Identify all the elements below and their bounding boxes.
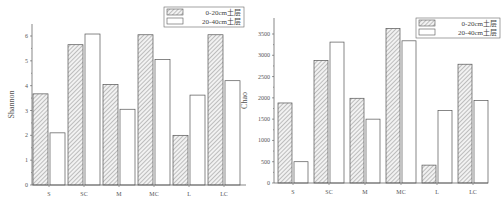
y-tick-label: 0 xyxy=(25,182,28,188)
x-tick-label: LC xyxy=(469,189,477,195)
bar-MC-0-20cm xyxy=(386,28,400,183)
bar-L-0-20cm xyxy=(173,135,188,185)
bar-S-20-40cm xyxy=(294,162,308,183)
bar-MC-20-40cm xyxy=(402,41,416,183)
bar-SC-20-40cm xyxy=(330,42,344,183)
legend-swatch xyxy=(419,20,435,26)
bar-L-20-40cm xyxy=(438,111,452,183)
y-tick-label: 1000 xyxy=(258,137,270,143)
y-tick-label: 2500 xyxy=(258,74,270,80)
bar-M-0-20cm xyxy=(350,98,364,183)
y-tick-label: 1500 xyxy=(258,116,270,122)
legend-label: 20-40cm土层 xyxy=(458,28,497,37)
x-tick-label: SC xyxy=(80,191,87,197)
y-tick-label: 3 xyxy=(25,108,28,114)
legend-swatch xyxy=(167,18,183,24)
x-tick-label: S xyxy=(291,189,294,195)
x-tick-label: L xyxy=(435,189,439,195)
legend-label: 0-20cm土层 xyxy=(206,8,241,17)
bar-SC-20-40cm xyxy=(85,34,100,185)
x-tick-label: LC xyxy=(220,191,228,197)
bar-M-20-40cm xyxy=(120,109,135,185)
y-tick-label: 0 xyxy=(267,180,270,186)
chart-canvas: SSCMMCLLC0123456Shannon0-20cm土层20-40cm土层… xyxy=(0,0,504,205)
x-tick-label: SC xyxy=(325,189,332,195)
y-axis-label: Shannon xyxy=(7,91,16,119)
y-tick-label: 6 xyxy=(25,33,28,39)
bar-M-0-20cm xyxy=(103,84,118,185)
legend: 0-20cm土层20-40cm土层 xyxy=(416,18,500,38)
x-tick-label: MC xyxy=(149,191,158,197)
y-tick-label: 5 xyxy=(25,58,28,64)
y-tick-label: 1 xyxy=(25,157,28,163)
x-tick-label: L xyxy=(187,191,191,197)
legend-swatch xyxy=(167,9,183,15)
bar-S-0-20cm xyxy=(33,94,48,185)
x-tick-label: MC xyxy=(396,189,405,195)
y-tick-label: 4 xyxy=(25,83,28,89)
x-tick-label: M xyxy=(116,191,122,197)
bar-MC-0-20cm xyxy=(138,35,153,185)
legend-swatch xyxy=(419,29,435,35)
bar-SC-0-20cm xyxy=(68,45,83,185)
bar-LC-20-40cm xyxy=(225,81,240,185)
y-tick-label: 3500 xyxy=(258,31,270,37)
x-tick-label: M xyxy=(362,189,368,195)
bar-LC-0-20cm xyxy=(208,35,223,185)
shannon-chart: SSCMMCLLC0123456Shannon0-20cm土层20-40cm土层 xyxy=(7,7,246,197)
legend: 0-20cm土层20-40cm土层 xyxy=(164,7,244,27)
bar-S-0-20cm xyxy=(278,103,292,183)
bar-M-20-40cm xyxy=(366,119,380,183)
x-tick-label: S xyxy=(47,191,50,197)
legend-label: 0-20cm土层 xyxy=(462,19,497,28)
y-tick-label: 3000 xyxy=(258,52,270,58)
bar-LC-0-20cm xyxy=(458,64,472,183)
legend-label: 20-40cm土层 xyxy=(202,17,241,26)
y-tick-label: 2 xyxy=(25,132,28,138)
bar-SC-0-20cm xyxy=(314,60,328,183)
y-tick-label: 500 xyxy=(261,159,270,165)
bar-L-0-20cm xyxy=(422,165,436,183)
y-axis-label: Chao xyxy=(240,92,249,109)
bar-S-20-40cm xyxy=(50,133,65,185)
bar-LC-20-40cm xyxy=(474,100,488,183)
bar-L-20-40cm xyxy=(190,95,205,185)
y-tick-label: 2000 xyxy=(258,95,270,101)
bar-MC-20-40cm xyxy=(155,60,170,185)
chao-chart: SSCMMCLLC0500100015002000250030003500Cha… xyxy=(240,18,500,195)
